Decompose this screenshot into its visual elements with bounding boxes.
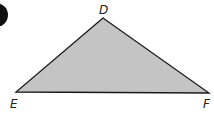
triangle-def (16, 18, 209, 93)
triangle-diagram: D E F (0, 0, 214, 119)
number-marker-circle (0, 3, 8, 27)
vertex-label-f: F (203, 97, 211, 111)
vertex-label-e: E (10, 97, 18, 111)
vertex-label-d: D (99, 3, 108, 17)
